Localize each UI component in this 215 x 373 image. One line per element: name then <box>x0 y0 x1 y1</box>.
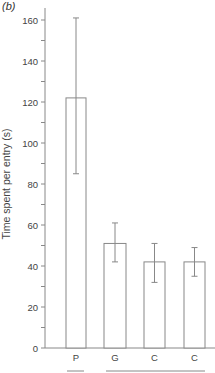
y-tick-label: 0 <box>33 343 38 354</box>
y-tick-label: 40 <box>27 261 38 272</box>
x-tick-label: P <box>73 352 79 363</box>
y-tick-label: 80 <box>27 179 38 190</box>
bar-chart: 020406080100120140160Time spent per entr… <box>0 0 215 373</box>
y-tick-label: 120 <box>22 97 38 108</box>
x-tick-label: C <box>191 352 198 363</box>
y-tick-label: 160 <box>22 15 38 26</box>
y-axis-label: Time spent per entry (s) <box>0 128 12 239</box>
y-tick-label: 140 <box>22 56 38 67</box>
y-tick-label: 20 <box>27 302 38 313</box>
y-tick-label: 60 <box>27 220 38 231</box>
x-tick-label: G <box>111 352 118 363</box>
x-tick-label: C <box>151 352 158 363</box>
y-tick-label: 100 <box>22 138 38 149</box>
